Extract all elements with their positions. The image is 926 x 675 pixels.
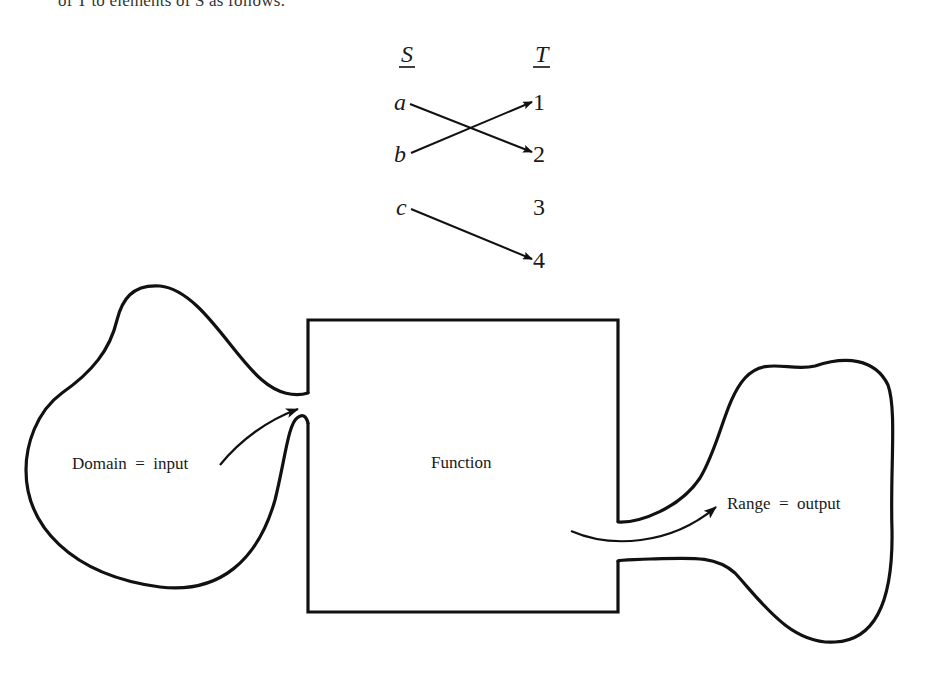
range-label: Range = output	[727, 494, 841, 513]
set-t-heading: T	[535, 41, 550, 67]
function-machine: Function Domain = input Range = output	[26, 286, 893, 642]
element-4: 4	[533, 247, 545, 273]
domain-label: Domain = input	[72, 454, 189, 473]
domain-input-arrow	[220, 409, 298, 465]
set-mapping: S T a b c 1 2 3 4	[394, 41, 550, 273]
element-3: 3	[533, 194, 545, 220]
element-b: b	[394, 141, 406, 167]
range-output-arrow	[571, 507, 716, 541]
element-1: 1	[533, 89, 545, 115]
function-label: Function	[431, 453, 492, 472]
arrow-c-to-4	[411, 209, 532, 259]
element-2: 2	[533, 141, 545, 167]
diagram-canvas: S T a b c 1 2 3 4 Function Domain = inpu…	[0, 0, 926, 675]
element-c: c	[396, 194, 407, 220]
element-a: a	[394, 89, 406, 115]
set-s-heading: S	[401, 41, 413, 67]
domain-blob	[26, 286, 308, 588]
